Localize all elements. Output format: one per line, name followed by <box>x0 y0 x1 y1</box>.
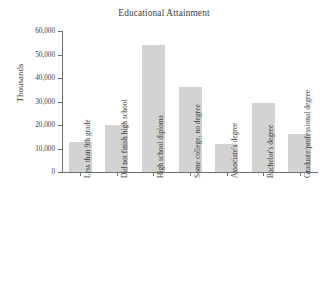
x-axis-label: High school diploma <box>156 115 165 178</box>
x-axis-tick <box>227 173 228 176</box>
y-axis-line <box>62 31 63 173</box>
y-axis-tick <box>58 172 62 173</box>
x-axis-label: Associate's degree <box>230 123 239 178</box>
y-axis-tick <box>58 125 62 126</box>
x-axis-tick <box>117 173 118 176</box>
y-axis-tick-label: 20,000 <box>1 121 55 129</box>
y-axis-tick-label: 0 <box>1 168 55 176</box>
x-axis-label: Graduate/professional degree <box>303 90 312 178</box>
x-axis-label: Some college, no degree <box>193 104 202 178</box>
y-axis-tick-label: 40,000 <box>1 74 55 82</box>
y-axis-tick <box>58 149 62 150</box>
x-axis-tick <box>190 173 191 176</box>
y-axis-tick <box>58 55 62 56</box>
y-axis-tick-label: 10,000 <box>1 145 55 153</box>
y-axis-tick-label: 50,000 <box>1 51 55 59</box>
x-axis-tick <box>300 173 301 176</box>
y-axis-tick <box>58 78 62 79</box>
x-axis-label: Did not finish high school <box>120 100 129 179</box>
x-axis-tick <box>263 173 264 176</box>
y-axis-tick-label: 30,000 <box>1 98 55 106</box>
bar-chart-figure: Educational Attainment 010,00020,00030,0… <box>0 0 328 296</box>
x-axis-tick <box>80 173 81 176</box>
x-axis-label: Less than 9th grade <box>83 119 92 178</box>
y-axis-tick <box>58 31 62 32</box>
x-axis-tick <box>153 173 154 176</box>
y-axis-title: Thousands <box>15 33 25 133</box>
x-axis-label: Bachelor's degree <box>266 125 275 178</box>
chart-title: Educational Attainment <box>0 8 328 18</box>
y-axis-tick-label: 60,000 <box>1 27 55 35</box>
y-axis-tick <box>58 102 62 103</box>
